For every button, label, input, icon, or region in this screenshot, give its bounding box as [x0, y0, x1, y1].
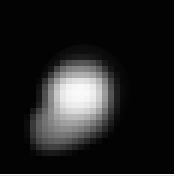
sky-background-frame — [0, 0, 174, 174]
plate-underline-rule — [0, 175, 174, 176]
image-viewer — [0, 0, 180, 185]
page-margin-right — [174, 0, 180, 185]
object-pixel-mosaic — [0, 0, 174, 174]
